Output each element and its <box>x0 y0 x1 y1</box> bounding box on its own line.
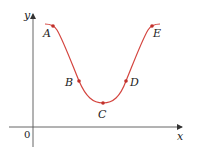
point-a <box>51 24 55 28</box>
point-label-e: E <box>152 27 161 40</box>
point-label-d: D <box>129 76 139 89</box>
y-axis-label: y <box>23 9 31 22</box>
graph-canvas: A B C D E y x 0 <box>0 0 203 150</box>
curve <box>45 24 160 103</box>
point-c <box>101 101 105 105</box>
point-label-c: C <box>98 108 107 121</box>
point-label-a: A <box>42 27 51 40</box>
origin-label: 0 <box>24 129 30 140</box>
point-d <box>124 79 128 83</box>
point-b <box>77 79 81 83</box>
x-axis-label: x <box>177 130 184 143</box>
function-graph-figure: A B C D E y x 0 <box>0 0 203 150</box>
point-label-b: B <box>64 76 73 89</box>
